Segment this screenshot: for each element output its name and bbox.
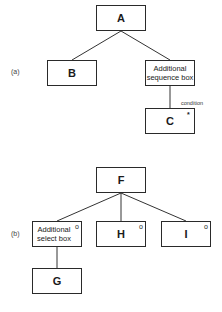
node-f-label: F [118, 174, 125, 186]
node-f: F [96, 167, 146, 193]
node-b-label: B [68, 67, 76, 79]
connector-lines [0, 0, 222, 312]
node-g-label: G [53, 275, 62, 287]
iteration-asterisk-icon: * [187, 111, 190, 118]
diagram-b-label: (b) [11, 230, 20, 237]
diagram-a-label: (a) [11, 68, 20, 75]
node-b: B [47, 60, 97, 86]
selection-circle-icon: o [204, 223, 208, 230]
node-seq-label: Additional sequence box [146, 64, 194, 82]
node-c-label: C [166, 115, 174, 127]
selection-circle-icon: o [139, 223, 143, 230]
selection-circle-icon: o [75, 223, 79, 230]
node-a-label: A [117, 12, 125, 24]
node-h-label: H [117, 228, 125, 240]
node-i-label: I [184, 228, 187, 240]
node-a: A [96, 5, 146, 31]
node-additional-sequence-box: Additional sequence box [145, 60, 195, 86]
node-g: G [32, 268, 82, 294]
node-sel-label: Additional select box [33, 225, 81, 243]
condition-label: condition [181, 100, 203, 106]
